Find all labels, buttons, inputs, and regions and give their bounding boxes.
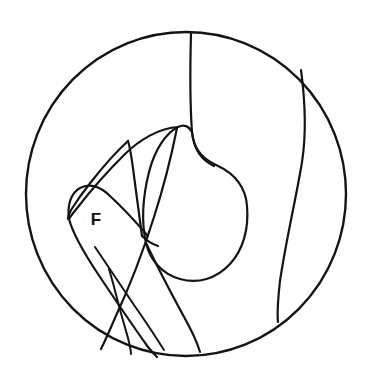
figure-canvas: F	[0, 0, 374, 375]
label-f: F	[91, 210, 101, 229]
line-diagram-svg: F	[0, 0, 374, 375]
label-group: F	[91, 210, 101, 229]
background-rect	[0, 0, 374, 375]
